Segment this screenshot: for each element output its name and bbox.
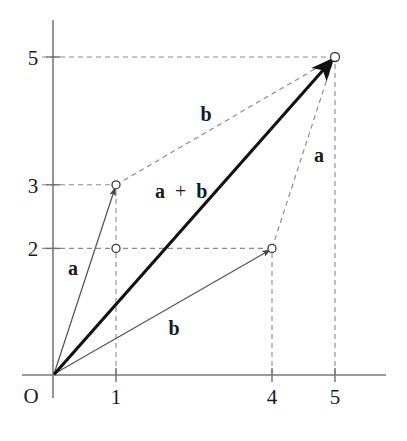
- point-marker-4-2: [268, 244, 276, 252]
- x-tick-label-5: 5: [330, 385, 341, 409]
- vector-label-b-bottom: b: [168, 317, 179, 339]
- vector-sum-arrow: [54, 60, 332, 375]
- vector-addition-figure: O 1 4 5 2 3 5 a b b a a + b: [0, 0, 407, 441]
- point-markers-group: [112, 53, 340, 253]
- point-marker-1-3: [112, 181, 120, 189]
- vector-label-a-right: a: [314, 144, 324, 166]
- vector-a-translated: [272, 59, 334, 248]
- vector-label-sum-operator: +: [175, 180, 186, 202]
- y-tick-label-2: 2: [28, 237, 39, 261]
- vector-b-translated: [116, 59, 333, 185]
- vectors-group: [54, 60, 332, 375]
- x-tick-label-4: 4: [267, 385, 278, 409]
- vector-label-b-top: b: [200, 103, 211, 125]
- point-marker-5-5: [331, 53, 340, 62]
- y-tick-label-3: 3: [28, 174, 39, 198]
- x-tick-label-1: 1: [111, 385, 122, 409]
- vector-diagram-canvas: O 1 4 5 2 3 5 a b b a a + b: [0, 0, 407, 441]
- vector-label-sum: a + b: [155, 180, 207, 202]
- axes-group: [22, 20, 386, 398]
- vector-label-sum-a: a: [155, 180, 165, 202]
- point-marker-1-2: [112, 244, 120, 252]
- vector-a-arrow: [54, 188, 115, 374]
- origin-label: O: [23, 384, 38, 408]
- vector-b-arrow: [54, 250, 270, 374]
- y-tick-label-5: 5: [28, 46, 39, 70]
- translated-vectors-group: [116, 59, 334, 249]
- vector-label-a-left: a: [68, 257, 78, 279]
- vector-label-sum-b: b: [196, 180, 207, 202]
